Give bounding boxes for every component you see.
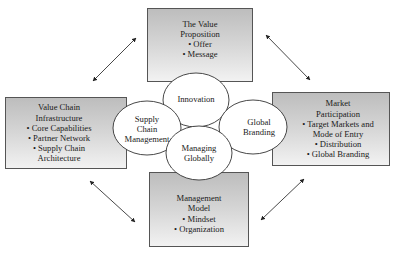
ellipse-text: Innovation <box>177 94 214 104</box>
ellipse-text: Managing <box>182 143 217 153</box>
ellipse-text: Branding <box>243 127 275 137</box>
ellipse-text: Management <box>125 134 170 144</box>
ellipse-layer <box>0 0 397 254</box>
innovation-label: Innovation <box>163 88 229 110</box>
managing-globally-label: Managing Globally <box>165 141 233 165</box>
ellipse-text: Supply <box>135 114 159 124</box>
global-branding-label: Global Branding <box>225 115 293 139</box>
ellipse-text: Globally <box>184 153 214 163</box>
ellipse-text: Global <box>247 117 270 127</box>
ellipse-text: Chain <box>137 124 158 134</box>
